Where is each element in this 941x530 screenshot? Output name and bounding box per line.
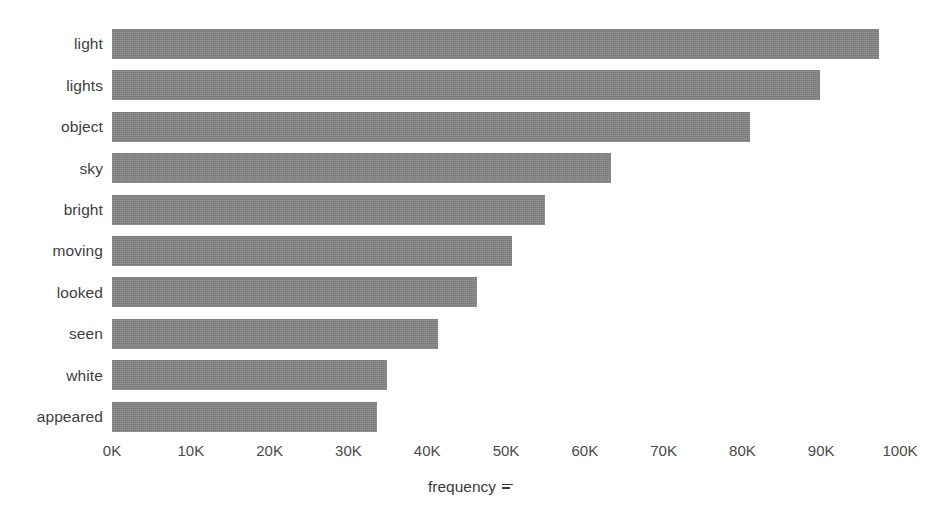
bar-row: lights bbox=[0, 65, 941, 106]
bar-appeared[interactable] bbox=[112, 402, 377, 432]
bar-row: seen bbox=[0, 313, 941, 354]
bar-row: moving bbox=[0, 231, 941, 272]
bar-track bbox=[112, 319, 438, 349]
x-axis-tick-labels: 0K10K20K30K40K50K60K70K80K90K100K bbox=[0, 443, 941, 469]
category-label-appeared: appeared bbox=[0, 409, 103, 425]
category-label-moving: moving bbox=[0, 243, 103, 259]
category-label-sky: sky bbox=[0, 161, 103, 177]
x-tick-label: 30K bbox=[335, 443, 362, 458]
bar-track bbox=[112, 153, 611, 183]
plot-area: lightlightsobjectskybrightmovinglookedse… bbox=[0, 0, 941, 450]
category-label-lights: lights bbox=[0, 78, 103, 94]
bar-track bbox=[112, 70, 820, 100]
sort-descending-icon[interactable] bbox=[502, 484, 513, 493]
bar-row: bright bbox=[0, 189, 941, 230]
bar-track bbox=[112, 277, 477, 307]
bar-track bbox=[112, 360, 387, 390]
x-axis-title: frequency bbox=[0, 478, 941, 496]
bar-seen[interactable] bbox=[112, 319, 438, 349]
x-tick-label: 70K bbox=[650, 443, 677, 458]
category-label-white: white bbox=[0, 368, 103, 384]
bar-row: white bbox=[0, 355, 941, 396]
bar-track bbox=[112, 236, 512, 266]
bar-track bbox=[112, 195, 545, 225]
x-tick-label: 20K bbox=[256, 443, 283, 458]
bar-row: looked bbox=[0, 272, 941, 313]
bar-track bbox=[112, 29, 879, 59]
bar-sky[interactable] bbox=[112, 153, 611, 183]
bar-track bbox=[112, 402, 377, 432]
x-tick-label: 40K bbox=[414, 443, 441, 458]
x-tick-label: 100K bbox=[882, 443, 917, 458]
bar-bright[interactable] bbox=[112, 195, 545, 225]
x-tick-label: 60K bbox=[571, 443, 598, 458]
x-tick-label: 50K bbox=[493, 443, 520, 458]
x-tick-label: 80K bbox=[729, 443, 756, 458]
bar-row: light bbox=[0, 24, 941, 65]
bar-looked[interactable] bbox=[112, 277, 477, 307]
bar-track bbox=[112, 112, 750, 142]
bar-row: object bbox=[0, 106, 941, 147]
x-tick-label: 90K bbox=[808, 443, 835, 458]
x-tick-label: 10K bbox=[177, 443, 204, 458]
x-axis-title-label: frequency bbox=[428, 478, 496, 496]
bar-row: sky bbox=[0, 148, 941, 189]
bar-object[interactable] bbox=[112, 112, 750, 142]
x-tick-label: 0K bbox=[103, 443, 121, 458]
bar-chart: lightlightsobjectskybrightmovinglookedse… bbox=[0, 0, 941, 530]
bar-row: appeared bbox=[0, 396, 941, 437]
category-label-object: object bbox=[0, 119, 103, 135]
bar-moving[interactable] bbox=[112, 236, 512, 266]
category-label-looked: looked bbox=[0, 285, 103, 301]
category-label-seen: seen bbox=[0, 326, 103, 342]
bar-light[interactable] bbox=[112, 29, 879, 59]
category-label-bright: bright bbox=[0, 202, 103, 218]
bar-lights[interactable] bbox=[112, 70, 820, 100]
bar-white[interactable] bbox=[112, 360, 387, 390]
category-label-light: light bbox=[0, 36, 103, 52]
